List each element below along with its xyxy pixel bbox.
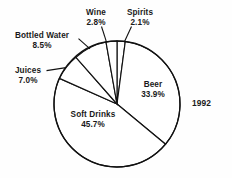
pie-label-juices: Juices 7.0% — [6, 66, 50, 86]
pie-label-soft-drinks-value: 45.7% — [60, 120, 126, 130]
pie-label-juices-name: Juices — [6, 66, 50, 76]
pie-label-bottled-water-name: Bottled Water — [4, 31, 80, 41]
leader-line-bottled-water — [79, 39, 91, 49]
pie-label-spirits-name: Spirits — [119, 8, 161, 18]
pie-label-wine-name: Wine — [77, 8, 115, 18]
pie-label-soft-drinks: Soft Drinks 45.7% — [60, 110, 126, 130]
leader-line-spirits — [124, 27, 131, 43]
pie-label-beer-name: Beer — [134, 80, 172, 90]
pie-label-spirits-value: 2.1% — [119, 18, 161, 28]
pie-label-wine-value: 2.8% — [77, 18, 115, 28]
pie-label-spirits: Spirits 2.1% — [119, 8, 161, 28]
pie-label-soft-drinks-name: Soft Drinks — [60, 110, 126, 120]
leader-line-wine — [102, 27, 107, 43]
chart-year-annotation: 1992 — [192, 98, 226, 108]
pie-label-beer: Beer 33.9% — [134, 80, 172, 100]
pie-label-bottled-water: Bottled Water 8.5% — [4, 31, 80, 51]
pie-label-beer-value: 33.9% — [134, 90, 172, 100]
pie-label-juices-value: 7.0% — [6, 76, 50, 86]
pie-chart-graphic — [0, 0, 232, 178]
pie-label-bottled-water-value: 8.5% — [4, 41, 80, 51]
pie-label-wine: Wine 2.8% — [77, 8, 115, 28]
pie-chart-figure: Wine 2.8% Spirits 2.1% Bottled Water 8.5… — [0, 0, 232, 178]
